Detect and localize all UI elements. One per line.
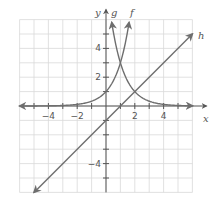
y-tick-label: −4 [88, 159, 102, 169]
line-h [34, 34, 192, 192]
x-axis-label: x [203, 113, 209, 124]
curve-label-h: h [198, 30, 204, 41]
x-tick-label: 2 [132, 111, 138, 121]
curve-g [112, 22, 193, 105]
labels: −4−22442−4xyfgh [42, 7, 209, 169]
x-tick-label: −2 [71, 111, 84, 121]
curve-f [20, 22, 129, 105]
x-tick-label: 4 [161, 111, 167, 121]
curve-label-f: f [129, 7, 136, 18]
y-axis-label: y [94, 7, 101, 18]
curve-label-g: g [111, 7, 117, 18]
y-tick-label: 4 [95, 43, 101, 53]
x-tick-label: −4 [42, 111, 56, 121]
function-graph: −4−22442−4xyfgh [0, 0, 217, 208]
y-tick-label: 2 [95, 72, 101, 82]
